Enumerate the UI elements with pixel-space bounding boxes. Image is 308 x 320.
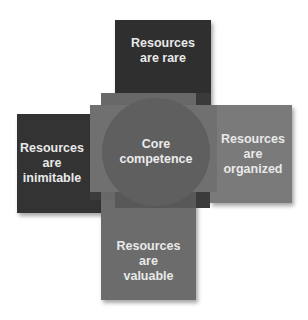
box-resources-inimitable-label: Resources are inimitable [17, 141, 87, 186]
box-resources-rare-label: Resources are rare [131, 36, 195, 66]
box-resources-valuable: Resources are valuable [101, 200, 196, 300]
box-resources-organized-label: Resources are organized [214, 132, 292, 177]
box-resources-valuable-label: Resources are valuable [117, 239, 181, 284]
core-competence-label: Core competence [120, 137, 193, 167]
overlap-corner-dark-bl [90, 192, 101, 200]
box-resources-organized: Resources are organized [210, 105, 292, 203]
core-competence-label-wrap: Core competence [102, 98, 210, 206]
